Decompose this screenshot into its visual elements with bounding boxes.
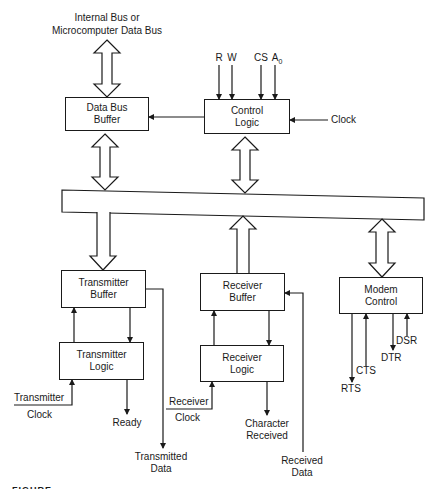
rts-label: RTS [341,383,361,395]
signal-a0-base: A [272,52,279,63]
transmitter-logic-block: Transmitter Logic [59,342,144,380]
receiver-buffer-block: Receiver Buffer [200,273,285,311]
diagram-lines [0,0,438,489]
receiver-logic-block: Receiver Logic [200,345,284,382]
signal-a0: A0 [272,52,283,68]
bidirectional-arrow-icon [232,137,258,193]
signal-a0-subscript: 0 [278,58,282,65]
data-bus-buffer-block: Data Bus Buffer [65,97,149,131]
block-label: Buffer [94,114,121,126]
cts-label: CTS [356,365,376,377]
signal-r: R [215,52,222,64]
block-label: Receiver [223,280,262,292]
character-received-label-line2: Received [246,430,288,442]
up-arrow-icon [230,216,256,273]
transmitted-data-label-line2: Data [150,463,171,475]
receiver-clock-label: Receiver [169,396,208,408]
block-label: Buffer [90,289,117,301]
block-label: Receiver [222,352,261,364]
signal-w: W [227,52,236,64]
transmitted-data-label: Transmitted [135,451,187,463]
title-line2: Microcomputer Data Bus [52,25,162,37]
figure-caption-fragment: FIGURE [12,484,52,489]
signal-cs: CS [254,52,268,64]
block-label: Transmitter [76,349,126,361]
receiver-clock-label-line2: Clock [175,412,200,424]
block-label: Control [231,105,263,117]
received-data-label-line2: Data [291,467,312,479]
block-label: Modem [364,284,397,296]
transmitter-buffer-block: Transmitter Buffer [61,270,146,308]
block-label: Logic [235,117,259,129]
down-arrow-icon [90,212,116,270]
block-label: Transmitter [78,277,128,289]
dsr-label: DSR [396,335,417,347]
bidirectional-arrow-icon [369,219,395,277]
modem-control-block: Modem Control [339,277,423,314]
transmitter-clock-label: Transmitter [14,392,64,404]
clock-label: Clock [331,114,356,126]
transmitter-clock-label-line2: Clock [27,409,52,421]
bidirectional-arrow-icon [92,134,118,190]
block-label: Logic [90,361,114,373]
block-label: Logic [230,364,254,376]
title-line1: Internal Bus or [74,12,139,24]
ready-label: Ready [113,417,142,429]
block-label: Control [365,296,397,308]
block-label: Buffer [229,292,256,304]
character-received-label: Character [245,418,289,430]
received-data-label: Received [281,455,323,467]
control-logic-block: Control Logic [204,99,290,134]
dtr-label: DTR [381,352,402,364]
bidirectional-arrow-icon [94,40,120,97]
block-label: Data Bus [86,102,127,114]
